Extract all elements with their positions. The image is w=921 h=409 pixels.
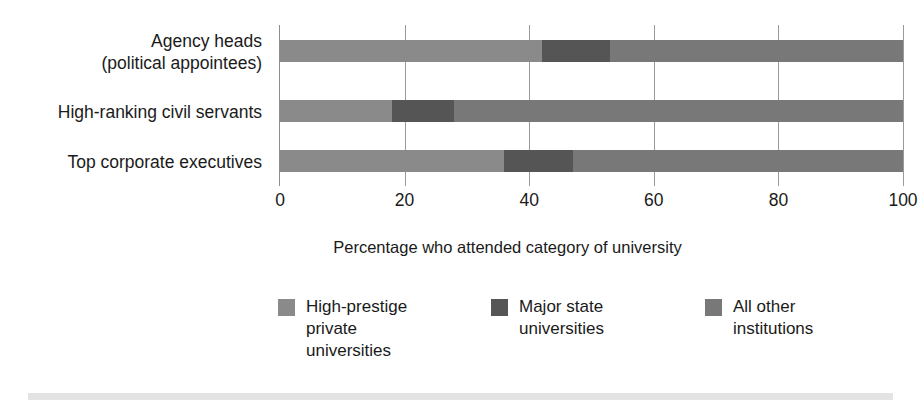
x-axis-tick-labels: 020406080100 xyxy=(0,190,921,216)
chart-legend: High-prestige private universities Major… xyxy=(278,296,898,371)
category-label-civil-servants: High-ranking civil servants xyxy=(58,101,262,123)
legend-label-line3: universities xyxy=(306,340,407,362)
legend-item-high-prestige: High-prestige private universities xyxy=(278,296,407,362)
plot-area xyxy=(280,25,903,186)
legend-label-line2: private xyxy=(306,318,407,340)
legend-label-high-prestige: High-prestige private universities xyxy=(306,296,407,362)
chart-figure: Agency heads (political appointees) High… xyxy=(0,0,921,409)
bar-segment-agency-heads-s1 xyxy=(542,40,611,62)
bar-corporate-executives xyxy=(280,150,903,172)
category-label-line1: Top corporate executives xyxy=(67,152,262,172)
category-label-line1: Agency heads xyxy=(151,31,262,51)
x-tick-label-40: 40 xyxy=(519,190,538,211)
category-label-corporate-executives: Top corporate executives xyxy=(67,151,262,173)
legend-swatch-major-state xyxy=(491,299,508,316)
x-tick-label-60: 60 xyxy=(644,190,663,211)
legend-label-line1: High-prestige xyxy=(306,296,407,318)
x-tick-label-80: 80 xyxy=(769,190,788,211)
legend-item-all-other: All other institutions xyxy=(705,296,813,340)
bottom-rule xyxy=(28,393,893,400)
bar-civil-servants xyxy=(280,100,903,122)
gridline-100 xyxy=(903,25,904,186)
legend-label-line1: Major state xyxy=(519,296,604,318)
bar-segment-corporate-executives-s0 xyxy=(280,150,504,172)
x-tick-label-100: 100 xyxy=(888,190,917,211)
bar-segment-civil-servants-s2 xyxy=(454,100,903,122)
legend-item-major-state: Major state universities xyxy=(491,296,604,340)
legend-label-line2: universities xyxy=(519,318,604,340)
bar-segment-corporate-executives-s2 xyxy=(573,150,903,172)
legend-swatch-high-prestige xyxy=(278,299,295,316)
x-tick-label-20: 20 xyxy=(395,190,414,211)
category-label-line2: (political appointees) xyxy=(101,52,262,74)
bar-segment-civil-servants-s1 xyxy=(392,100,454,122)
x-tick-label-0: 0 xyxy=(275,190,285,211)
legend-label-all-other: All other institutions xyxy=(733,296,813,340)
legend-swatch-all-other xyxy=(705,299,722,316)
x-axis-title: Percentage who attended category of univ… xyxy=(0,238,921,257)
category-label-line1: High-ranking civil servants xyxy=(58,102,262,122)
x-axis-title-text: Percentage who attended category of univ… xyxy=(333,238,682,256)
bar-segment-civil-servants-s0 xyxy=(280,100,392,122)
category-axis-labels: Agency heads (political appointees) High… xyxy=(0,25,270,186)
legend-label-line2: institutions xyxy=(733,318,813,340)
bar-agency-heads xyxy=(280,40,903,62)
legend-label-major-state: Major state universities xyxy=(519,296,604,340)
bar-segment-agency-heads-s0 xyxy=(280,40,542,62)
bar-segment-agency-heads-s2 xyxy=(610,40,903,62)
legend-label-line1: All other xyxy=(733,296,813,318)
bar-segment-corporate-executives-s1 xyxy=(504,150,573,172)
category-label-agency-heads: Agency heads (political appointees) xyxy=(101,30,262,74)
